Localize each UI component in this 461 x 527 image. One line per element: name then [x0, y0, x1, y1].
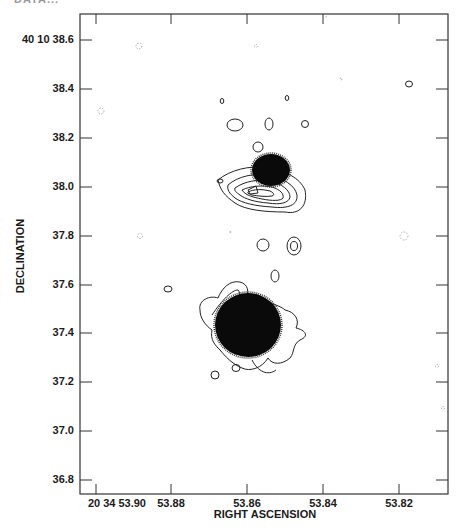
x-tick-label: 20 34 53.90: [36, 497, 146, 509]
y-axis-title: DECLINATION: [14, 216, 26, 296]
southern-source-core: [214, 292, 282, 358]
contour-islands: [164, 81, 413, 379]
y-tick-label: 37.2: [4, 375, 74, 387]
y-tick-label: 38.4: [4, 82, 74, 94]
y-tick-label: 37.4: [4, 326, 74, 338]
x-ticks: [96, 14, 399, 494]
northern-source-core: [251, 153, 291, 187]
y-tick-label: 40 10 38.6: [4, 33, 74, 45]
y-tick-label: 36.8: [4, 473, 74, 485]
x-tick-label: 53.88: [131, 497, 211, 509]
contour-map: [0, 0, 461, 527]
plot-frame: [80, 14, 448, 494]
x-axis-title: RIGHT ASCENSION: [200, 508, 330, 520]
y-tick-label: 38.2: [4, 131, 74, 143]
y-ticks: [80, 40, 448, 480]
y-tick-label: 38.0: [4, 180, 74, 192]
y-tick-label: 37.0: [4, 424, 74, 436]
x-tick-label: 53.82: [359, 497, 439, 509]
